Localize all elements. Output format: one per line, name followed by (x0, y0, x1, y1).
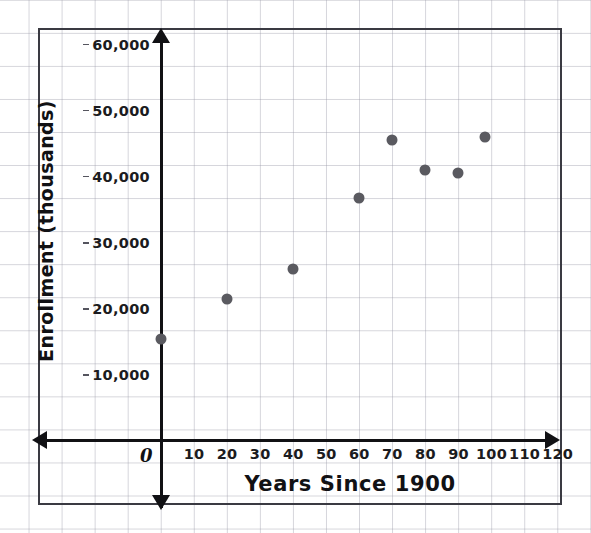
data-point (354, 192, 365, 203)
x-axis-tick-label: 100 (476, 446, 507, 462)
y-axis-tick-mark (83, 374, 89, 376)
x-axis-tick-label: 30 (250, 446, 271, 462)
y-axis-title: Enrollment (thousands) (35, 81, 57, 381)
data-point (453, 168, 464, 179)
x-axis-tick-label: 50 (316, 446, 337, 462)
y-axis-tick-label: 60,000 (92, 37, 150, 53)
x-axis-tick-label: 70 (382, 446, 403, 462)
y-axis-tick-mark (83, 44, 89, 46)
x-axis-tick-label: 40 (283, 446, 304, 462)
y-axis-tick-label: 40,000 (92, 169, 150, 185)
y-axis-tick-mark (83, 242, 89, 244)
y-axis-arrow-up-icon (152, 28, 170, 43)
plot-canvas: 10,00020,00030,00040,00050,00060,000 102… (0, 0, 591, 533)
data-point (420, 165, 431, 176)
y-axis-line (160, 38, 163, 508)
y-axis-tick-label: 50,000 (92, 103, 150, 119)
data-point (479, 132, 490, 143)
x-axis-line (44, 439, 552, 442)
y-axis-arrow-down-icon (152, 495, 170, 510)
y-axis-tick-label: 30,000 (92, 235, 150, 251)
y-axis-tick-mark (83, 110, 89, 112)
x-axis-tick-label: 90 (448, 446, 469, 462)
x-axis-arrow-left-icon (32, 431, 47, 449)
y-axis-tick-label: 20,000 (92, 301, 150, 317)
x-axis-title: Years Since 1900 (200, 472, 500, 496)
data-point (222, 293, 233, 304)
data-point (288, 264, 299, 275)
data-point (387, 135, 398, 146)
y-axis-tick-mark (83, 308, 89, 310)
scatter-plot-figure: 10,00020,00030,00040,00050,00060,000 102… (0, 0, 591, 533)
x-axis-tick-label: 80 (415, 446, 436, 462)
y-axis-tick-mark (83, 176, 89, 178)
x-axis-tick-label: 120 (542, 446, 573, 462)
x-axis-tick-label: 20 (217, 446, 238, 462)
data-point (156, 333, 167, 344)
origin-label: 0 (140, 445, 153, 466)
x-axis-tick-label: 60 (349, 446, 370, 462)
x-axis-tick-label: 110 (509, 446, 540, 462)
y-axis-tick-label: 10,000 (92, 367, 150, 383)
x-axis-tick-label: 10 (184, 446, 205, 462)
